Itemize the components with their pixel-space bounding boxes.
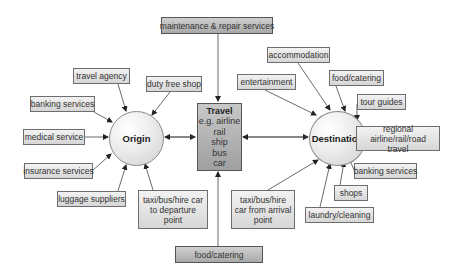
service-box-food-catering-destination: food/catering <box>329 70 384 86</box>
service-label: luggage suppliers <box>58 194 125 204</box>
service-label: banking services <box>31 99 94 109</box>
service-label-line: point <box>254 215 272 225</box>
travel-example-line: ship <box>211 137 228 148</box>
service-label: accommodation <box>269 50 329 60</box>
service-label: maintenance & repair services <box>160 21 274 31</box>
service-label-line: taxi/bus/hire <box>240 195 286 205</box>
service-label: medical service <box>25 132 84 142</box>
service-label: tour guides <box>360 97 402 107</box>
travel-node: Travel e.g. airline rail ship bus car <box>197 103 242 171</box>
service-box-tour-guides: tour guides <box>357 94 406 110</box>
service-box-accommodation: accommodation <box>267 47 330 63</box>
service-label: banking services <box>354 166 417 176</box>
service-box-laundry: laundry/cleaning <box>305 207 374 223</box>
travel-example-line: bus <box>212 148 227 159</box>
travel-example-line: rail <box>213 127 225 138</box>
service-box-travel-agency: travel agency <box>73 68 130 84</box>
service-label-line: regional <box>383 124 413 134</box>
service-box-banking-origin: banking services <box>30 96 95 112</box>
service-label-line: car from arrival <box>235 205 292 215</box>
service-box-shops: shops <box>334 185 368 201</box>
service-box-maintenance: maintenance & repair services <box>161 17 273 34</box>
service-label: travel agency <box>76 71 127 81</box>
service-box-taxi-departure: taxi/bus/hire car to departure point <box>138 190 208 229</box>
service-label: food/catering <box>194 250 243 260</box>
service-box-taxi-arrival: taxi/bus/hire car from arrival point <box>231 190 295 229</box>
travel-services-diagram: Origin Destination Travel e.g. airline r… <box>0 0 463 276</box>
service-label-line: point <box>164 215 182 225</box>
service-label-line: taxi/bus/hire car <box>143 195 203 205</box>
service-box-luggage: luggage suppliers <box>57 191 126 207</box>
service-label-line: to departure <box>150 205 196 215</box>
service-label: entertainment <box>241 77 293 87</box>
service-box-banking-destination: banking services <box>354 163 417 179</box>
service-label: laundry/cleaning <box>309 210 371 220</box>
service-box-insurance: insurance services <box>24 163 93 179</box>
service-label: duty free shop <box>147 79 201 89</box>
service-box-regional-travel: regional airline/rail/road travel <box>356 126 440 151</box>
service-label: shops <box>340 188 363 198</box>
travel-example-line: car <box>213 158 226 169</box>
origin-node: Origin <box>109 111 164 166</box>
service-label: food/catering <box>332 73 381 83</box>
service-label-line: airline/rail/road travel <box>359 134 437 154</box>
travel-title: Travel <box>206 106 232 117</box>
service-box-entertainment: entertainment <box>237 74 296 90</box>
service-box-duty-free: duty free shop <box>146 76 202 92</box>
travel-example-line: e.g. airline <box>199 116 241 127</box>
service-box-food-catering-travel: food/catering <box>175 246 263 263</box>
service-label: insurance services <box>23 166 93 176</box>
origin-label: Origin <box>123 133 151 144</box>
service-box-medical: medical service <box>23 129 85 145</box>
